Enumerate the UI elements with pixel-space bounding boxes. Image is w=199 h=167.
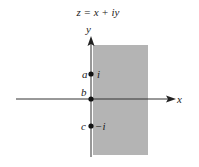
point-c-value: −i xyxy=(95,120,105,132)
point-a xyxy=(88,71,93,76)
point-b xyxy=(88,96,93,101)
point-c xyxy=(88,123,93,128)
diagram-title: z = x + iy xyxy=(76,6,120,18)
shaded-region xyxy=(93,45,148,155)
y-axis-label: y xyxy=(85,23,91,35)
x-axis-label: x xyxy=(176,93,182,105)
point-a-label: a xyxy=(82,68,88,80)
complex-plane-diagram: z = x + iy y x a i b c −i xyxy=(0,0,199,167)
point-c-label: c xyxy=(81,120,86,132)
point-b-label: b xyxy=(81,86,87,98)
point-a-value: i xyxy=(97,68,100,80)
